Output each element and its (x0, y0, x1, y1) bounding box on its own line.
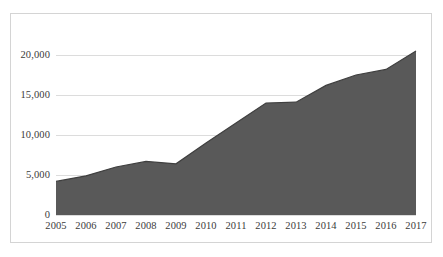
x-tick-label-2005: 2005 (45, 220, 66, 231)
x-tick-label-2009: 2009 (165, 220, 186, 231)
y-tick-label-0: 0 (45, 209, 50, 220)
x-tick-label-2008: 2008 (135, 220, 156, 231)
chart-container: 05,00010,00015,00020,000 200520062007200… (10, 13, 432, 243)
gridline-0: 0 (56, 215, 416, 216)
x-tick-label-2010: 2010 (195, 220, 216, 231)
x-tick-label-2013: 2013 (285, 220, 306, 231)
y-tick-label-10000: 10,000 (21, 129, 50, 140)
plot-area: 05,00010,00015,00020,000 200520062007200… (56, 39, 416, 215)
x-tick-label-2011: 2011 (225, 220, 246, 231)
area-fill (56, 51, 416, 215)
y-tick-label-15000: 15,000 (21, 89, 50, 100)
x-tick-label-2014: 2014 (315, 220, 336, 231)
area-series-svg (56, 39, 416, 215)
x-tick-label-2007: 2007 (105, 220, 126, 231)
x-tick-label-2006: 2006 (75, 220, 96, 231)
y-tick-label-5000: 5,000 (26, 169, 50, 180)
x-tick-label-2015: 2015 (345, 220, 366, 231)
x-tick-label-2012: 2012 (255, 220, 276, 231)
y-tick-label-20000: 20,000 (21, 49, 50, 60)
x-tick-label-2017: 2017 (405, 220, 426, 231)
x-tick-label-2016: 2016 (375, 220, 396, 231)
